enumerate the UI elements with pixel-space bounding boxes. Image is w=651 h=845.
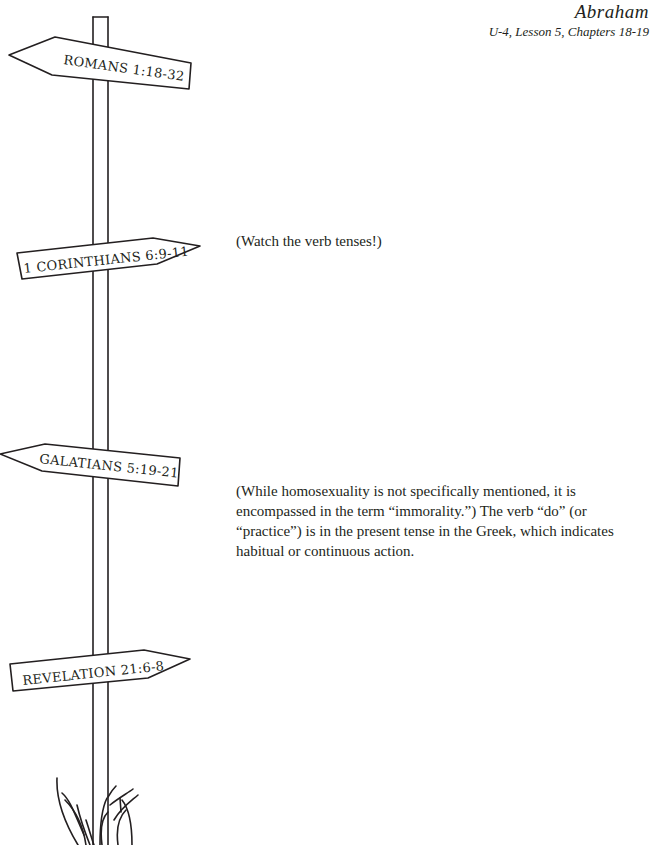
signpost-illustration: ROMANS 1:18-32 1 CORINTHIANS 6:9-11 GALA… [0, 0, 651, 845]
sign-galatians: GALATIANS 5:19-21 [0, 444, 180, 486]
note-corinthians: (Watch the verb tenses!) [236, 231, 382, 251]
sign-romans: ROMANS 1:18-32 [9, 37, 191, 89]
sign-revelation: REVELATION 21:6-8 [10, 650, 190, 691]
signpost-pole [93, 17, 108, 845]
note-galatians: (While homosexuality is not specifically… [236, 481, 651, 561]
grass-icon [57, 778, 138, 845]
